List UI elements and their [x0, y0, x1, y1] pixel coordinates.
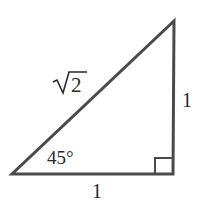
triangle-shape [12, 21, 174, 174]
triangle-diagram: 2 1 1 45° [0, 0, 200, 206]
horizontal-leg-label: 1 [92, 180, 102, 202]
radical-sign-icon [53, 72, 87, 93]
vertical-leg-label: 1 [182, 89, 192, 111]
right-angle-marker [155, 158, 173, 174]
hypotenuse-label: 2 [53, 72, 87, 97]
angle-label: 45° [47, 147, 74, 168]
hypotenuse-radicand: 2 [71, 73, 82, 97]
